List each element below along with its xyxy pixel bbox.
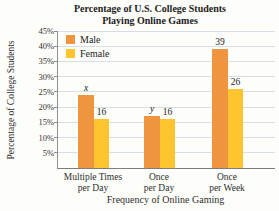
y-tick-label-5: 5%	[14, 148, 54, 158]
bar-male-0	[78, 95, 94, 168]
bar-value-label-female-0: 16	[91, 107, 113, 117]
chart-title: Percentage of U.S. College Students Play…	[40, 3, 260, 26]
y-tick-mark-15	[54, 122, 58, 123]
y-tick-label-40: 40%	[14, 41, 54, 51]
y-tick-mark-45	[54, 31, 58, 32]
x-axis-title: Frequency of Online Gaming	[57, 194, 274, 205]
y-tick-mark-35	[54, 61, 58, 62]
y-tick-label-25: 25%	[14, 87, 54, 97]
y-tick-mark-5	[54, 152, 58, 153]
chart-title-line2: Playing Online Games	[40, 15, 260, 27]
y-tick-label-10: 10%	[14, 133, 54, 143]
y-tick-label-30: 30%	[14, 72, 54, 82]
bar-female-2	[228, 89, 243, 168]
y-tick-mark-30	[54, 76, 58, 77]
chart-title-line1: Percentage of U.S. College Students	[40, 3, 260, 15]
legend-label-male: Male	[80, 34, 101, 45]
legend: MaleFemale	[66, 33, 109, 61]
legend-item-male: Male	[66, 33, 109, 46]
x-category-label-2-line1: Once	[179, 172, 275, 183]
legend-male-swatch-icon	[66, 35, 75, 44]
legend-item-female: Female	[66, 47, 109, 60]
bar-female-0	[94, 119, 109, 168]
y-tick-mark-25	[54, 91, 58, 92]
bar-value-label-female-2: 26	[225, 77, 247, 87]
legend-female-swatch-icon	[66, 49, 75, 58]
gridline-45	[58, 31, 275, 32]
bar-value-label-male-0: x	[75, 83, 97, 93]
y-tick-label-45: 45%	[14, 26, 54, 36]
y-tick-label-15: 15%	[14, 117, 54, 127]
y-tick-label-20: 20%	[14, 102, 54, 112]
gridline-35	[58, 61, 275, 62]
bar-value-label-female-1: 16	[157, 107, 179, 117]
y-tick-mark-10	[54, 137, 58, 138]
y-tick-mark-40	[54, 46, 58, 47]
bar-male-1	[144, 116, 160, 168]
legend-label-female: Female	[80, 48, 109, 59]
y-tick-label-35: 35%	[14, 56, 54, 66]
bar-female-1	[160, 119, 175, 168]
bar-value-label-male-2: 39	[209, 37, 231, 47]
y-tick-mark-20	[54, 107, 58, 108]
x-category-label-2-line2: per Week	[179, 183, 275, 194]
chart-figure: Percentage of U.S. College Students Play…	[0, 0, 279, 211]
bar-male-2	[212, 49, 228, 168]
x-category-label-2: Onceper Week	[179, 172, 275, 193]
